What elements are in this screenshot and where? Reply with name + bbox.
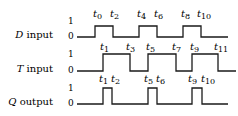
time-label: t1	[99, 73, 108, 86]
signal-label-q: Q output	[8, 96, 53, 107]
time-label: t2	[110, 8, 119, 21]
time-labels-q: t1t2t5t6t9t10	[99, 73, 215, 86]
signal-row-q: Q output 1 0 t1t2t5t6t9t10	[8, 73, 228, 108]
time-label: t10	[197, 8, 211, 21]
time-label: t9	[188, 73, 197, 86]
time-label: t11	[214, 41, 228, 54]
time-labels-d: t0t2t4t6t8t10	[93, 8, 211, 21]
signal-label-d: D input	[14, 29, 53, 40]
time-label: t6	[154, 8, 163, 21]
level-high-label: 1	[68, 49, 74, 59]
time-label: t4	[137, 8, 146, 21]
time-label: t5	[146, 41, 155, 54]
time-label: t6	[156, 73, 165, 86]
waveform-d	[77, 26, 228, 37]
signal-row-d: D input 1 0 t0t2t4t6t8t10	[14, 8, 228, 41]
time-label: t5	[144, 73, 153, 86]
signal-label-t: T input	[17, 63, 53, 74]
time-labels-t: t1t3t5t7t9t11	[100, 41, 228, 54]
time-label: t0	[93, 8, 102, 21]
time-label: t9	[190, 41, 199, 54]
level-low-label: 0	[68, 98, 74, 108]
time-label: t10	[201, 73, 215, 86]
time-label: t2	[111, 73, 120, 86]
waveform-q	[77, 88, 228, 104]
level-high-label: 1	[68, 83, 74, 93]
level-low-label: 0	[68, 65, 74, 75]
level-high-label: 1	[68, 16, 74, 26]
level-low-label: 0	[68, 31, 74, 41]
signal-row-t: T input 1 0 t1t3t5t7t9t11	[17, 41, 236, 75]
timing-diagram: D input 1 0 t0t2t4t6t8t10 T input 1 0 t1…	[0, 0, 238, 116]
time-label: t1	[100, 41, 109, 54]
waveform-t	[77, 54, 236, 71]
time-label: t3	[126, 41, 135, 54]
time-label: t7	[172, 41, 181, 54]
time-label: t8	[181, 8, 190, 21]
